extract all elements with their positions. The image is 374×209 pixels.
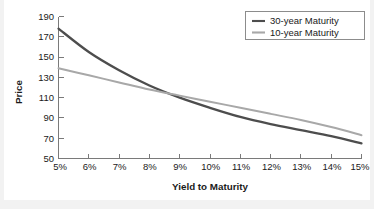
legend-label-10-year: 10-year Maturity [270,27,339,38]
series-line-10-year [59,68,362,135]
x-axis-tick-labels: 5% 6% 7% 8% 9% 10% 11% 12% 13% 14% 15% [53,161,370,172]
x-axis-title: Yield to Maturity [172,181,248,192]
x-tick-label: 5% [53,161,67,172]
x-tick-label: 15% [350,161,370,172]
y-tick-label: 130 [38,72,54,83]
price-vs-yield-line-chart: 50 70 90 110 130 150 170 190 [4,0,370,200]
y-tick-label: 90 [43,112,54,123]
y-tick-label: 110 [39,92,54,103]
chart-canvas: 50 70 90 110 130 150 170 190 [4,0,370,200]
y-axis-tick-labels: 50 70 90 110 130 150 170 190 [38,11,54,164]
legend-label-30-year: 30-year Maturity [270,15,339,26]
x-tick-label: 7% [113,161,127,172]
chart-legend: 30-year Maturity 10-year Maturity [246,12,365,40]
x-axis-ticks [59,154,362,159]
x-tick-label: 12% [262,161,282,172]
x-tick-label: 9% [173,161,187,172]
chart-screenshot: 50 70 90 110 130 150 170 190 [0,0,374,209]
y-tick-label: 190 [38,11,54,22]
y-tick-label: 170 [38,31,54,42]
y-axis-title: Price [13,79,24,104]
y-tick-label: 150 [38,51,54,62]
y-tick-label: 70 [43,133,54,144]
x-tick-label: 14% [322,161,342,172]
series-line-30-year [59,29,362,144]
x-tick-label: 6% [83,161,97,172]
x-tick-label: 13% [292,161,312,172]
x-tick-label: 11% [232,161,251,172]
x-tick-label: 8% [143,161,157,172]
x-tick-label: 10% [201,161,221,172]
y-axis-ticks [59,17,64,159]
